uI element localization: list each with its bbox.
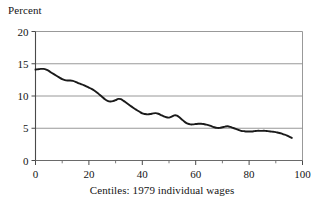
chart-figure: Percent 020406080100 05101520 Centiles: … [0, 0, 324, 207]
x-tick-label: 80 [244, 168, 256, 180]
y-tick-label: 20 [18, 26, 30, 38]
x-tick-label: 40 [137, 168, 149, 180]
data-series-group [36, 69, 292, 138]
x-tick-label: 60 [190, 168, 202, 180]
y-tick-label: 5 [23, 122, 29, 134]
x-tick-group: 020406080100 [33, 161, 312, 180]
y-tick-label: 15 [18, 58, 30, 70]
data-line-percent [36, 69, 292, 138]
y-tick-label: 10 [18, 90, 30, 102]
gridlines-group [36, 32, 303, 129]
x-tick-label: 0 [33, 168, 39, 180]
y-tick-label: 0 [23, 155, 29, 167]
line-chart-plot: 020406080100 05101520 [0, 0, 324, 207]
x-tick-label: 20 [83, 168, 95, 180]
x-axis-caption: Centiles: 1979 individual wages [0, 184, 324, 197]
y-tick-group: 05101520 [18, 26, 36, 167]
x-tick-label: 100 [294, 168, 311, 180]
